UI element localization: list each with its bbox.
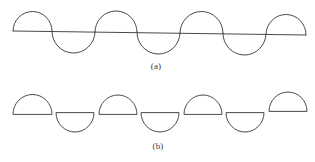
caption-a: (a)	[136, 61, 176, 71]
figure-background	[0, 0, 315, 162]
caption-b: (b)	[138, 141, 178, 151]
figure-svg	[0, 0, 315, 162]
